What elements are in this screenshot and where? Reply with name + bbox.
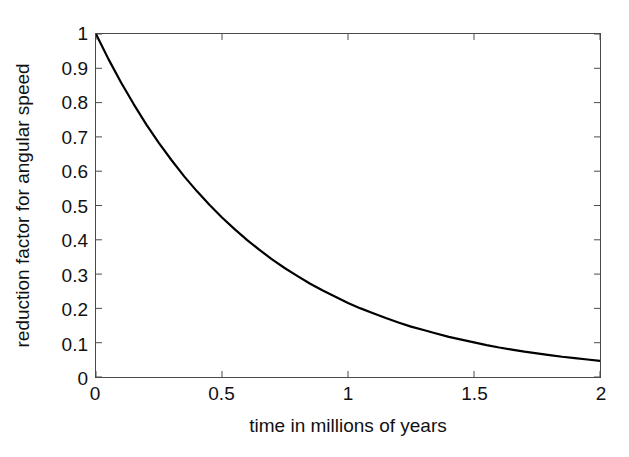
y-tick-label: 0.7	[62, 127, 88, 146]
y-tick-label: 0.8	[62, 93, 88, 112]
y-tick-label: 1	[77, 24, 88, 43]
y-axis-title-text: reduction factor for angular speed	[13, 63, 34, 347]
y-tick-label: 0.3	[62, 265, 88, 284]
y-tick-label: 0.6	[62, 162, 88, 181]
x-axis-title: time in millions of years	[95, 416, 601, 437]
axis-ticks	[96, 34, 600, 377]
y-tick-label: 0.5	[62, 196, 88, 215]
y-tick-label: 0.4	[62, 231, 88, 250]
y-tick-label: 0.2	[62, 300, 88, 319]
x-axis-tick-labels: 00.511.52	[95, 384, 601, 410]
series-line-reduction-factor	[96, 34, 600, 361]
x-tick-label: 1.5	[461, 384, 487, 403]
y-tick-label: 0.1	[62, 334, 88, 353]
x-tick-label: 1	[343, 384, 354, 403]
y-tick-label: 0	[77, 369, 88, 388]
figure-canvas: 00.10.20.30.40.50.60.70.80.91 reduction …	[0, 0, 629, 457]
x-tick-label: 0	[90, 384, 101, 403]
plot-area	[95, 33, 601, 378]
x-tick-label: 2	[596, 384, 607, 403]
y-axis-title: reduction factor for angular speed	[10, 33, 36, 378]
x-tick-label: 0.5	[208, 384, 234, 403]
data-curve-svg	[96, 34, 600, 377]
y-tick-label: 0.9	[62, 58, 88, 77]
